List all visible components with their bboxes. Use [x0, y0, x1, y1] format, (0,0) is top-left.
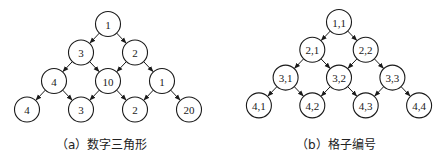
- node-label: 4,1: [252, 100, 266, 112]
- node-label: 2: [132, 104, 138, 116]
- node-label: 10: [103, 76, 115, 88]
- edge-arrow: [117, 62, 126, 72]
- edge-arrow: [117, 90, 126, 100]
- edge-arrow: [374, 59, 383, 68]
- triangle-node: 3,1: [273, 65, 298, 90]
- edge-arrow: [295, 59, 304, 68]
- node-label: 20: [184, 104, 196, 116]
- triangle-node: 10: [96, 69, 121, 94]
- triangle-node: 4: [42, 69, 67, 94]
- node-label: 3,2: [332, 72, 346, 84]
- edge-arrow: [171, 90, 180, 100]
- triangle-node: 1: [150, 69, 175, 94]
- edge-arrow: [90, 90, 99, 100]
- number-triangle-panel: 132410143220: [15, 12, 202, 123]
- edge-arrow: [321, 87, 330, 96]
- triangle-node: 2,2: [353, 37, 378, 62]
- node-label: 3,3: [386, 72, 400, 84]
- triangle-node: 3: [69, 40, 94, 65]
- node-label: 3: [78, 47, 84, 59]
- triangle-node: 3,2: [327, 65, 352, 90]
- edge-arrow: [321, 31, 330, 40]
- edge-arrow: [348, 31, 357, 40]
- node-label: 3,1: [279, 72, 293, 84]
- node-label: 2,2: [359, 44, 373, 56]
- triangle-node: 4,2: [300, 93, 325, 118]
- node-label: 1,1: [332, 17, 346, 29]
- triangle-node: 1: [96, 12, 121, 37]
- edge-arrow: [321, 59, 330, 68]
- edge-arrow: [90, 33, 99, 43]
- triangle-node: 4,1: [246, 93, 271, 118]
- node-label: 4: [24, 104, 30, 116]
- node-label: 2: [132, 47, 138, 59]
- triangle-node: 2: [123, 40, 148, 65]
- edge-arrow: [375, 87, 384, 96]
- edge-arrow: [401, 87, 410, 96]
- edge-arrow: [117, 33, 126, 43]
- triangle-node: 2: [123, 97, 148, 122]
- grid-index-panel: 1,12,12,23,13,23,34,14,24,34,4: [246, 10, 431, 118]
- edge-arrow: [63, 90, 72, 100]
- triangle-node: 20: [177, 97, 202, 122]
- edge-arrow: [90, 62, 99, 72]
- triangle-node: 1,1: [327, 10, 352, 35]
- node-label: 4,2: [305, 100, 319, 112]
- triangle-node: 4,3: [353, 93, 378, 118]
- node-label: 1: [105, 19, 111, 31]
- triangle-node: 4: [15, 97, 40, 122]
- triangle-node: 2,1: [300, 37, 325, 62]
- caption-grid-index: （b）格子编号: [296, 135, 376, 152]
- node-label: 4: [51, 76, 57, 88]
- node-label: 4,3: [359, 100, 373, 112]
- caption-number-triangle: （a）数字三角形: [56, 135, 147, 152]
- triangle-node: 4,4: [407, 93, 432, 118]
- edge-arrow: [268, 87, 277, 96]
- edge-arrow: [144, 62, 153, 72]
- edge-arrow: [63, 62, 72, 72]
- edge-arrow: [36, 90, 45, 100]
- edge-arrow: [294, 87, 303, 96]
- edge-arrow: [348, 87, 357, 96]
- triangle-node: 3: [69, 97, 94, 122]
- edge-arrow: [144, 90, 153, 100]
- node-label: 3: [78, 104, 84, 116]
- edge-arrow: [348, 59, 357, 68]
- triangle-node: 3,3: [380, 65, 405, 90]
- node-label: 2,1: [305, 44, 319, 56]
- node-label: 1: [159, 76, 165, 88]
- node-label: 4,4: [412, 100, 426, 112]
